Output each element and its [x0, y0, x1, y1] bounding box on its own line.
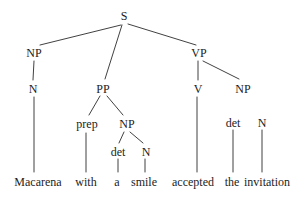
tree-edges [0, 0, 306, 200]
word-invitation: invitation [244, 175, 290, 189]
edge-s-np-subject [40, 25, 121, 45]
tree-node-prep: prep [76, 117, 97, 131]
word-the: the [225, 175, 240, 189]
tree-node-np-subject: NP [26, 46, 41, 60]
tree-node-det-object: det [226, 116, 241, 130]
tree-node-s: S [121, 9, 128, 23]
edge-pp-prep [89, 96, 100, 115]
edge-np-subject-n [33, 61, 34, 80]
tree-node-n-object: N [258, 116, 267, 130]
edge-vp-np-object [203, 61, 239, 79]
tree-node-pp: PP [96, 82, 109, 96]
tree-node-np-pp: NP [119, 117, 134, 131]
word-smile: smile [131, 175, 157, 189]
tree-node-n-pp: N [142, 145, 151, 159]
tree-node-n-subject: N [29, 82, 38, 96]
parse-tree-diagram: S NP VP N PP V NP prep NP det N det N Ma… [0, 0, 306, 200]
edge-s-vp [128, 24, 196, 45]
tree-node-det-pp: det [111, 145, 126, 159]
edge-pp-np [107, 96, 123, 115]
word-macarena: Macarena [14, 175, 61, 189]
edge-np-det-pp [119, 132, 124, 143]
tree-node-np-object: NP [235, 82, 250, 96]
edge-s-pp [105, 25, 122, 79]
edge-np-n-pp [130, 132, 143, 143]
word-with: with [75, 175, 96, 189]
word-a: a [114, 175, 119, 189]
tree-node-vp: VP [191, 46, 206, 60]
tree-node-v: V [194, 82, 203, 96]
word-accepted: accepted [172, 175, 214, 189]
